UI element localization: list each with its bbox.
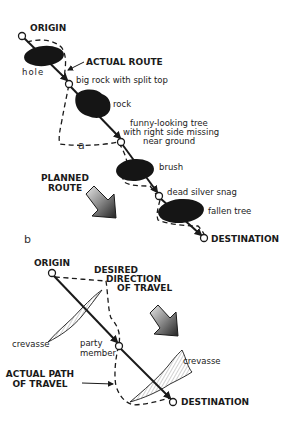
hole-blob [23,44,65,67]
destination-label: DESTINATION [211,234,279,244]
actual-route-label: ACTUAL ROUTE [86,57,163,67]
navigation-diagram: a ORIGIN ACTUAL ROUTE hole big rock with… [0,0,281,423]
crevasse-right-label: crevasse [183,356,221,366]
planned-direction-arrow-icon [86,186,116,218]
panel-b: ORIGIN DESIRED DIRECTION OF TRAVEL creva… [6,258,249,407]
panel-a: a ORIGIN ACTUAL ROUTE hole big rock with… [19,23,280,246]
tree-node [118,139,125,146]
rock-label: rock [113,99,131,109]
origin-node-b [49,270,56,277]
rock-blob [75,90,110,118]
hole-label: hole [22,67,44,77]
actual-path-label-line1: ACTUAL PATH [6,369,74,379]
party-member-label-line2: member [80,348,116,358]
destination-node-b [170,399,177,406]
tree-label-line3: near ground [143,136,195,146]
brush-blob [115,158,154,183]
destination-label-b: DESTINATION [181,397,249,407]
snag-label: dead silver snag [167,187,237,197]
planned-route-label-line1: PLANNED [41,173,89,183]
origin-node [19,33,26,40]
panel-b-label: b [24,233,31,246]
party-member-node [116,343,123,350]
actual-route-pointer [68,62,84,70]
desired-direction-arrow-icon [150,305,178,336]
planned-route-label-line2: ROUTE [48,183,82,193]
big-rock-node [66,81,73,88]
origin-label-b: ORIGIN [34,258,70,268]
actual-path-label-line2: OF TRAVEL [12,379,67,389]
brush-label: brush [159,162,183,172]
party-member-label-line1: party [80,338,102,348]
snag-node [156,193,163,200]
crevasse-left-label: crevasse [12,339,50,349]
destination-node [201,235,208,242]
origin-label: ORIGIN [30,23,66,33]
desired-direction-line3: OF TRAVEL [117,283,172,293]
big-rock-label: big rock with split top [76,75,168,85]
fallen-tree-label: fallen tree [208,206,251,216]
actual-path-pointer [82,383,113,384]
